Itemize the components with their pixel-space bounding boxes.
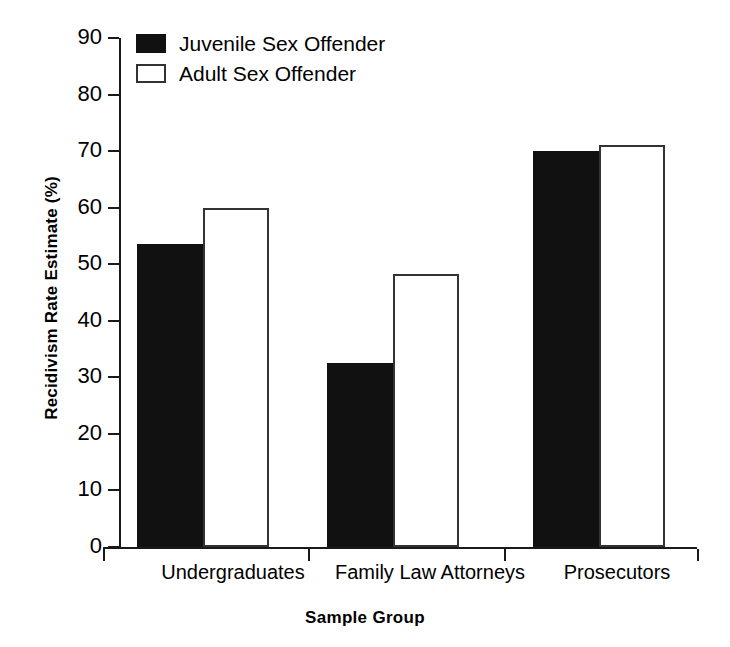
y-axis-tick-label: 20 bbox=[36, 422, 102, 444]
y-axis-tick bbox=[108, 489, 119, 491]
legend-swatch-outlined-square-icon bbox=[136, 64, 166, 83]
y-axis-tick-label: 70 bbox=[36, 139, 102, 161]
legend-item-adult: Adult Sex Offender bbox=[136, 60, 385, 87]
legend-label-juvenile: Juvenile Sex Offender bbox=[179, 33, 385, 54]
bar-juvenile-3 bbox=[533, 151, 599, 547]
y-axis-tick-label: 90 bbox=[36, 26, 102, 48]
y-axis-tick bbox=[108, 207, 119, 209]
y-axis-tick-label-text: 0 bbox=[42, 535, 102, 557]
bar-juvenile-1 bbox=[137, 244, 203, 547]
chart-legend: Juvenile Sex Offender Adult Sex Offender bbox=[136, 30, 385, 90]
bar-chart-figure: Recidivism Rate Estimate (%) 01020304050… bbox=[0, 0, 730, 647]
x-axis-tick bbox=[697, 549, 699, 561]
x-axis-title: Sample Group bbox=[0, 608, 730, 628]
y-axis-tick bbox=[108, 376, 119, 378]
bar-adult-3 bbox=[599, 145, 665, 547]
y-axis-tick-label: 50 bbox=[36, 252, 102, 274]
y-axis-tick-label: 10 bbox=[36, 478, 102, 500]
y-axis-tick-label-text: 80 bbox=[42, 83, 102, 105]
y-axis-tick bbox=[108, 263, 119, 265]
y-axis-tick-label-text: 90 bbox=[42, 26, 102, 48]
bar-adult-2 bbox=[393, 274, 459, 547]
y-axis-tick-label-text: 10 bbox=[42, 478, 102, 500]
y-axis-tick bbox=[108, 433, 119, 435]
bar-juvenile-2 bbox=[327, 363, 393, 547]
y-axis-tick bbox=[108, 320, 119, 322]
y-axis-tick bbox=[108, 37, 119, 39]
y-axis-tick-label: 80 bbox=[36, 83, 102, 105]
y-axis-tick-label-text: 60 bbox=[42, 196, 102, 218]
y-axis-tick-label-text: 40 bbox=[42, 309, 102, 331]
y-axis-tick bbox=[108, 150, 119, 152]
bar-adult-1 bbox=[203, 208, 269, 547]
x-axis-tick bbox=[308, 549, 310, 561]
x-axis-category-label: Prosecutors bbox=[467, 561, 730, 584]
y-axis-tick bbox=[108, 94, 119, 96]
y-axis-tick-label-text: 30 bbox=[42, 365, 102, 387]
legend-label-adult: Adult Sex Offender bbox=[179, 63, 356, 84]
y-axis-line bbox=[119, 38, 121, 549]
y-axis-tick-label: 40 bbox=[36, 309, 102, 331]
y-axis-tick-label-text: 70 bbox=[42, 139, 102, 161]
x-axis-tick bbox=[103, 549, 105, 561]
x-axis-line bbox=[103, 547, 697, 549]
legend-item-juvenile: Juvenile Sex Offender bbox=[136, 30, 385, 57]
y-axis-tick-label-text: 20 bbox=[42, 422, 102, 444]
y-axis-tick-label: 30 bbox=[36, 365, 102, 387]
y-axis-tick-label: 60 bbox=[36, 196, 102, 218]
y-axis-tick-label: 0 bbox=[36, 535, 102, 557]
x-axis-tick bbox=[504, 549, 506, 561]
y-axis-tick-label-text: 50 bbox=[42, 252, 102, 274]
y-axis-tick bbox=[108, 546, 119, 548]
legend-swatch-filled-square-icon bbox=[136, 34, 166, 53]
